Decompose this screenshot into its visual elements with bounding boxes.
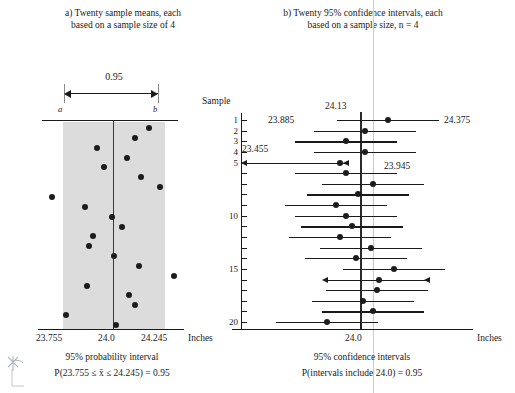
- sample-mean-dot: [109, 214, 115, 220]
- y-tick: [242, 290, 247, 291]
- interval-value-annotation: 23.455: [242, 144, 268, 154]
- panel-b-vertical-guide: [373, 0, 374, 393]
- confidence-interval-center-dot: [353, 255, 359, 261]
- confidence-interval-center-dot: [343, 213, 349, 219]
- sample-mean-dot: [132, 135, 138, 141]
- y-tick: [242, 216, 247, 217]
- confidence-interval-center-dot: [355, 191, 361, 197]
- panel-a-sample-means: 0.95 a b 23.755 24.0 24.245 Inches 95% p…: [0, 0, 232, 393]
- y-tick: [242, 120, 247, 121]
- sample-mean-dot: [171, 273, 177, 279]
- y-tick: [242, 311, 247, 312]
- y-tick-label: 4: [220, 147, 238, 157]
- y-tick: [242, 322, 247, 323]
- sample-mean-dot: [49, 194, 55, 200]
- panel-b-units-label: Inches: [477, 333, 502, 343]
- figure-page: a) Twenty sample means, each based on a …: [0, 0, 515, 393]
- sample-mean-dot: [113, 322, 119, 328]
- y-tick: [242, 280, 247, 281]
- bracket-stem-right: [158, 84, 159, 103]
- confidence-interval-center-dot: [343, 170, 349, 176]
- y-tick: [242, 269, 247, 270]
- y-tick-label: 3: [220, 136, 238, 146]
- sample-mean-dot: [119, 224, 125, 230]
- interval-value-annotation: 23.885: [268, 115, 294, 125]
- panel-a-xtick-lower: 23.755: [36, 333, 62, 343]
- sample-mean-dot: [157, 184, 163, 190]
- sample-mean-dot: [101, 164, 107, 170]
- y-tick: [242, 248, 247, 249]
- confidence-interval-center-dot: [337, 234, 343, 240]
- sample-mean-dot: [136, 263, 142, 269]
- y-tick: [242, 184, 247, 185]
- confidence-interval-center-dot: [362, 149, 368, 155]
- confidence-interval-center-dot: [376, 277, 382, 283]
- panel-a-axis: [38, 329, 184, 330]
- endpoint-b-label: b: [153, 104, 157, 114]
- confidence-interval-center-dot: [374, 287, 380, 293]
- sample-mean-dot: [146, 125, 152, 131]
- y-tick-label: 15: [220, 264, 238, 274]
- panel-a-xtick-center: 24.0: [98, 333, 115, 343]
- panel-a-center-line: [113, 121, 114, 330]
- confidence-interval-line: [247, 163, 349, 164]
- interval-value-annotation: 23.945: [384, 161, 410, 171]
- confidence-interval-center-dot: [370, 308, 376, 314]
- y-tick: [242, 131, 247, 132]
- panel-b-y-axis-title: Sample: [202, 96, 231, 106]
- y-tick-label: 5: [220, 158, 238, 168]
- sample-mean-dot: [111, 253, 117, 259]
- interval-arrow-left-icon: [322, 277, 328, 283]
- sample-mean-dot: [84, 283, 90, 289]
- sample-mean-dot: [63, 312, 69, 318]
- sample-mean-dot: [138, 174, 144, 180]
- confidence-interval-center-dot: [337, 160, 343, 166]
- sample-mean-dot: [126, 292, 132, 298]
- panel-b-xtick-center: 24.0: [345, 333, 362, 343]
- interval-value-annotation: 24.13: [325, 101, 346, 111]
- panel-a-xtick-upper: 24.245: [141, 333, 167, 343]
- confidence-interval-center-dot: [333, 202, 339, 208]
- sample-mean-dot: [94, 145, 100, 151]
- y-tick: [242, 237, 247, 238]
- bracket-arrow-right-icon: [151, 90, 158, 98]
- confidence-interval-center-dot: [368, 245, 374, 251]
- confidence-interval-center-dot: [370, 181, 376, 187]
- panel-b-confidence-intervals: Sample 12345101520 24.1323.88524.37523.4…: [232, 0, 515, 393]
- y-tick: [242, 226, 247, 227]
- panel-a-footer-line2: P(23.755 ≤ x̄ ≤ 24.245) = 0.95: [12, 368, 212, 378]
- sample-mean-dot: [132, 302, 138, 308]
- endpoint-a-label: a: [58, 104, 62, 114]
- y-tick-label: 10: [220, 211, 238, 221]
- interval-arrow-left-icon: [241, 160, 247, 166]
- bracket-line: [70, 93, 158, 94]
- panel-b-footer-line1: 95% confidence intervals: [252, 352, 472, 362]
- y-tick-label: 2: [220, 126, 238, 136]
- y-tick: [242, 258, 247, 259]
- panel-b-footer-line2: P(intervals include 24.0) = 0.95: [244, 368, 480, 378]
- y-tick: [242, 194, 247, 195]
- confidence-interval-center-dot: [349, 223, 355, 229]
- panel-a-units-label: Inches: [188, 333, 213, 343]
- confidence-interval-center-dot: [360, 298, 366, 304]
- panel-b-center-tick: [360, 323, 361, 330]
- interval-arrow-right-icon: [424, 277, 430, 283]
- probability-bracket-label: 0.95: [69, 71, 159, 82]
- handwritten-margin-mark-icon: [4, 355, 30, 389]
- y-tick: [242, 301, 247, 302]
- confidence-interval-center-dot: [343, 138, 349, 144]
- y-tick: [242, 205, 247, 206]
- sample-mean-dot: [82, 204, 88, 210]
- interval-value-annotation: 24.375: [444, 115, 470, 125]
- confidence-interval-center-dot: [362, 128, 368, 134]
- y-tick-label: 1: [220, 115, 238, 125]
- confidence-interval-center-dot: [391, 266, 397, 272]
- confidence-interval-center-dot: [324, 319, 330, 325]
- confidence-interval-center-dot: [385, 117, 391, 123]
- interval-arrow-right-icon: [343, 160, 349, 166]
- sample-mean-dot: [86, 243, 92, 249]
- panel-a-footer-line1: 95% probability interval: [22, 352, 202, 362]
- sample-mean-dot: [90, 233, 96, 239]
- bracket-arrow-left-icon: [64, 90, 71, 98]
- y-tick: [242, 173, 247, 174]
